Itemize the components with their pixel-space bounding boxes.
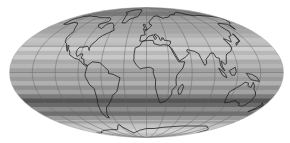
world-map bbox=[0, 0, 290, 143]
